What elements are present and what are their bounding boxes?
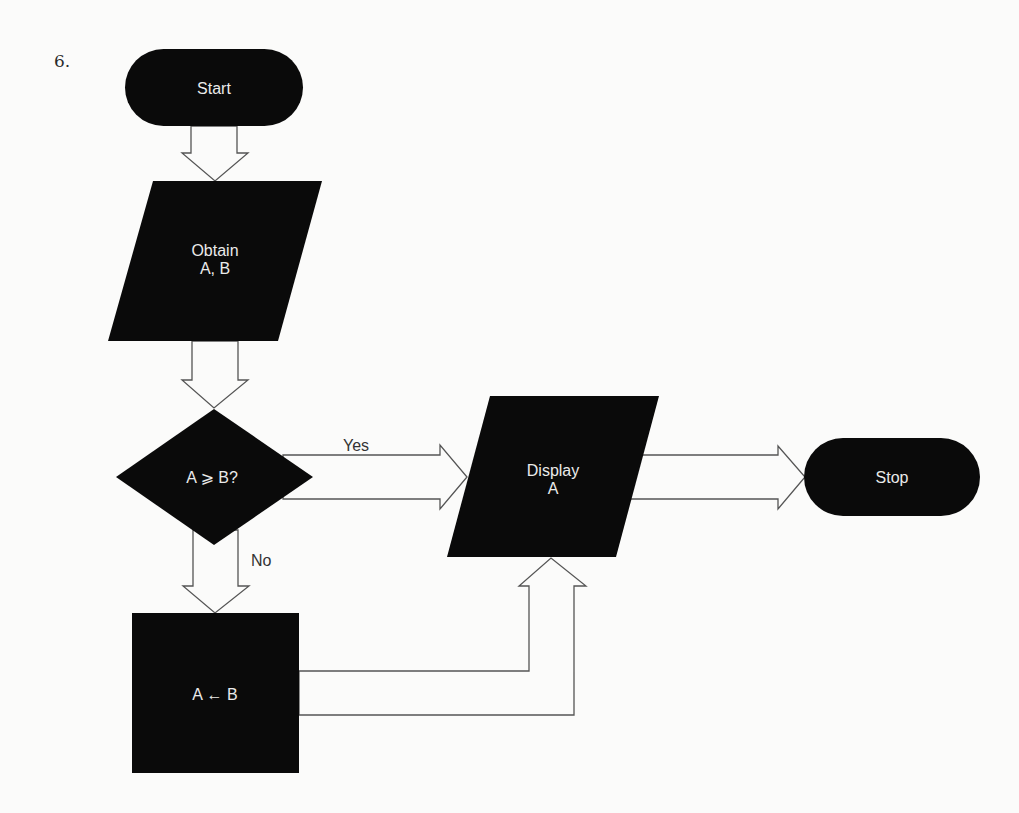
edge-label-no: No: [251, 552, 272, 569]
edge-label-yes: Yes: [343, 437, 369, 454]
arrow-obtain-to-decision: [182, 341, 248, 408]
node-obtain-label: Obtain: [191, 242, 238, 259]
node-start-label: Start: [197, 80, 231, 97]
node-display: Display A: [447, 396, 659, 557]
node-start: Start: [125, 49, 303, 126]
node-obtain-vars: A, B: [200, 260, 230, 277]
node-stop-label: Stop: [876, 469, 909, 486]
flowchart: Start Obtain A, B A ⩾ B? Display A A ← B…: [0, 0, 1019, 813]
node-decision: A ⩾ B?: [116, 409, 313, 545]
node-stop: Stop: [804, 438, 980, 516]
node-decision-label: A ⩾ B?: [186, 469, 238, 486]
node-display-vars: A: [548, 480, 559, 497]
node-display-label: Display: [527, 462, 579, 479]
arrow-start-to-obtain: [182, 126, 248, 181]
arrow-display-to-stop: [625, 446, 805, 509]
node-assign: A ← B: [132, 613, 299, 773]
node-obtain: Obtain A, B: [108, 181, 322, 341]
node-assign-label: A ← B: [192, 686, 237, 703]
arrow-assign-to-display: [299, 558, 586, 715]
